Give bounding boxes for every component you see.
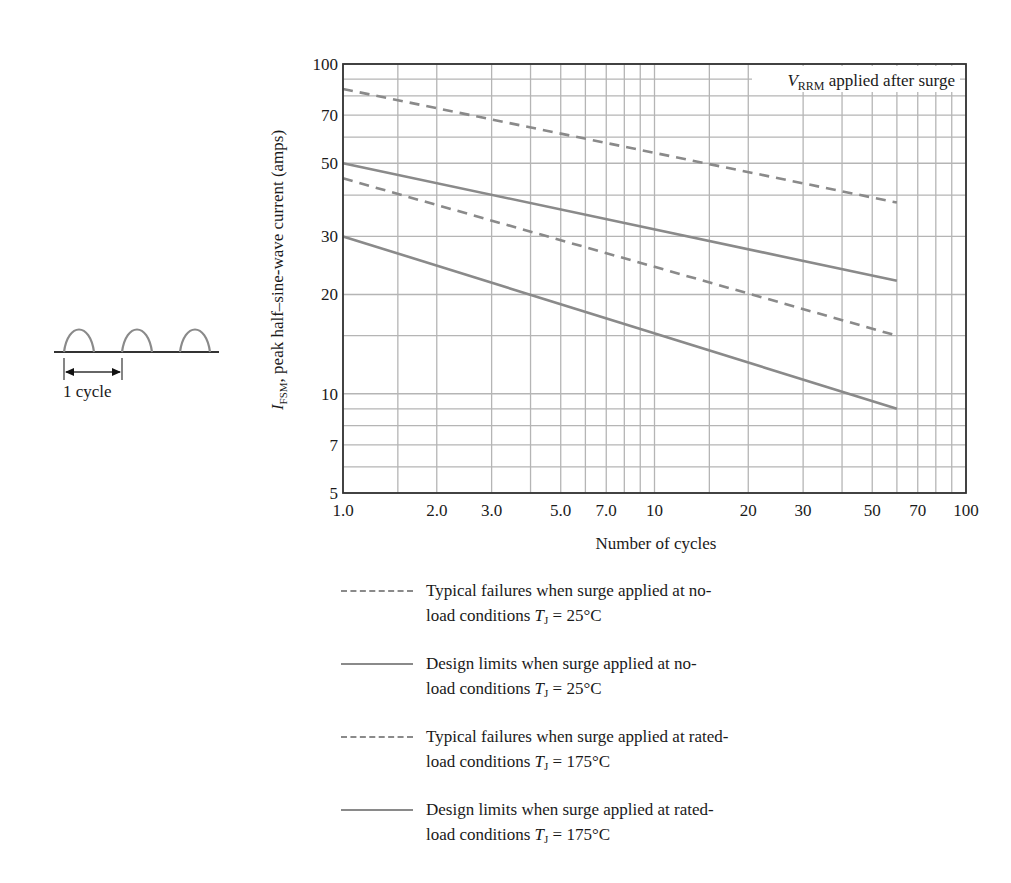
vrrm-annotation: VRRM applied after surge	[752, 66, 960, 93]
legend-label: Design limits when surge applied at rate…	[426, 797, 756, 852]
x-tick-label: 5.0	[550, 501, 571, 520]
legend-label: Design limits when surge applied at no- …	[426, 651, 756, 706]
x-tick-label: 2.0	[426, 501, 447, 520]
grid-lines	[343, 64, 966, 493]
x-tick-label: 10	[646, 501, 663, 520]
y-tick-label: 7	[330, 436, 339, 455]
y-tick-label: 5	[330, 484, 339, 503]
half-wave-pulse	[64, 330, 94, 353]
legend-label: Typical failures when surge applied at r…	[426, 724, 756, 779]
half-wave-inset	[54, 330, 219, 381]
y-tick-label: 100	[313, 55, 339, 74]
x-tick-label: 70	[909, 501, 926, 520]
series-line	[343, 178, 897, 335]
x-axis-ticks: 1.02.03.05.07.01020305070100	[332, 501, 978, 520]
x-tick-label: 100	[953, 501, 979, 520]
legend-item: Typical failures when surge applied at r…	[341, 720, 761, 793]
cycle-label: 1 cycle	[63, 382, 112, 402]
legend-swatch	[341, 736, 413, 738]
x-tick-label: 50	[864, 501, 881, 520]
half-wave-pulse	[122, 330, 152, 353]
legend-swatch	[341, 663, 413, 665]
y-tick-label: 70	[321, 106, 338, 125]
legend: Typical failures when surge applied at n…	[341, 574, 761, 866]
legend-item: Typical failures when surge applied at n…	[341, 574, 761, 647]
y-tick-label: 10	[321, 385, 338, 404]
legend-item: Design limits when surge applied at rate…	[341, 793, 761, 866]
x-tick-label: 1.0	[332, 501, 353, 520]
legend-swatch	[341, 809, 413, 811]
x-tick-label: 30	[795, 501, 812, 520]
legend-swatch	[341, 590, 413, 592]
y-axis-subscript: FSM	[277, 382, 289, 404]
legend-label: Typical failures when surge applied at n…	[426, 578, 756, 633]
y-tick-label: 30	[321, 227, 338, 246]
x-tick-label: 7.0	[596, 501, 617, 520]
y-tick-label: 20	[321, 285, 338, 304]
x-tick-label: 20	[740, 501, 757, 520]
y-axis-ticks: 571020305070100	[313, 55, 339, 503]
y-tick-label: 50	[321, 154, 338, 173]
x-axis-title: Number of cycles	[596, 534, 717, 553]
y-axis-title: IFSM, peak half–sine-wave current (amps)	[268, 130, 289, 411]
x-tick-label: 3.0	[481, 501, 502, 520]
half-wave-pulse	[180, 330, 210, 353]
legend-item: Design limits when surge applied at no- …	[341, 647, 761, 720]
y-axis-title-rest: , peak half–sine-wave current (amps)	[268, 130, 287, 383]
series-line	[343, 89, 897, 203]
